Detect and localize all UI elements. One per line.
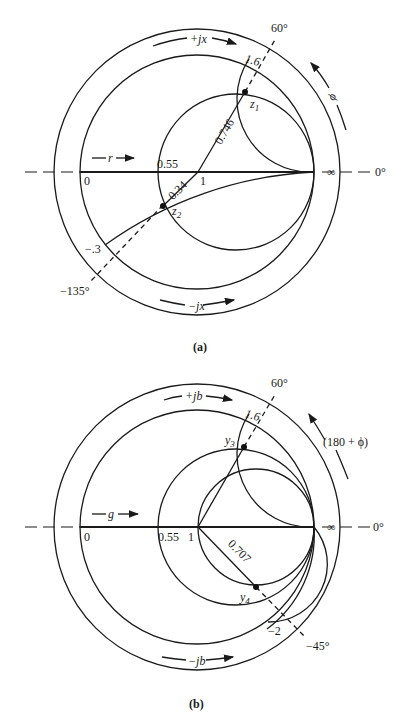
tick-1: 1 <box>188 530 194 544</box>
minus-jb-arrow-left <box>162 657 186 660</box>
caption-b: (b) <box>189 697 204 711</box>
minus-jb-label: −jb <box>188 654 205 668</box>
infinity-label: ∞ <box>327 165 336 179</box>
point-z1 <box>242 89 248 95</box>
phi-arrow-lower <box>336 450 348 479</box>
infinity-label: ∞ <box>327 520 336 534</box>
caption-a: (a) <box>193 340 207 354</box>
plus-jb-label: +jb <box>185 389 202 403</box>
point-z2-label: z2 <box>171 204 182 220</box>
radius-034-label: 0.34 <box>165 178 190 203</box>
angle-60-label: 60° <box>271 21 288 35</box>
phi-label: (180 + ϕ) <box>323 435 368 449</box>
phi-arrow-lower <box>337 105 346 130</box>
angle-0-label: 0° <box>375 165 386 179</box>
radius-to-y3 <box>198 447 244 527</box>
tick-0: 0 <box>84 174 90 188</box>
point-z1-label: z1 <box>249 97 259 113</box>
susceptance-arc-m1 <box>267 527 314 629</box>
g-label: g <box>108 507 114 521</box>
point-y4-label: y4 <box>239 590 250 606</box>
minus-jx-label: −jx <box>188 299 205 313</box>
minus-jx-arrow-right <box>203 300 234 305</box>
radius-0746-label: 0.746 <box>212 116 238 146</box>
plus-jb-arrow-left <box>164 396 182 400</box>
tick-1: 1 <box>200 174 206 188</box>
diagram-a: 60° 0° −135° ∞ +jx −jx r ϕ 0 0.55 1 1.6 … <box>25 21 386 354</box>
hidden-helper <box>197 511 314 527</box>
phi-label: ϕ <box>324 91 339 103</box>
plus-jx-arrow-right <box>212 38 236 44</box>
r-label: r <box>108 151 113 165</box>
angle-m135-label: −135° <box>60 284 90 298</box>
point-y3-label: y3 <box>224 433 235 449</box>
minus-jb-arrow-right <box>206 657 233 660</box>
angle-m45-label: −45° <box>306 639 330 653</box>
minus-jx-arrow-left <box>160 300 185 305</box>
phi-arrow-upper <box>311 63 329 88</box>
angle-60-label: 60° <box>271 376 288 390</box>
radius-0707-label: 0.707 <box>225 537 254 566</box>
plus-jx-arrow-left <box>153 38 187 46</box>
point-y3 <box>241 444 247 450</box>
tick-0: 0 <box>84 530 90 544</box>
plus-jb-arrow-right <box>206 396 232 400</box>
susceptance-m2-label: −2 <box>268 624 281 638</box>
tick-055: 0.55 <box>157 157 178 171</box>
smith-chart-figure: 60° 0° −135° ∞ +jx −jx r ϕ 0 0.55 1 1.6 … <box>0 0 408 727</box>
tick-055: 0.55 <box>158 530 179 544</box>
diagram-b: 60° 0° −45° ∞ +jb −jb g (180 + ϕ) 0 0.55… <box>25 376 384 711</box>
plus-jx-label: +jx <box>190 32 207 46</box>
point-y4 <box>253 584 259 590</box>
reactance-m03-label: −.3 <box>85 242 101 256</box>
point-z2 <box>160 203 166 209</box>
angle-0-label: 0° <box>373 520 384 534</box>
